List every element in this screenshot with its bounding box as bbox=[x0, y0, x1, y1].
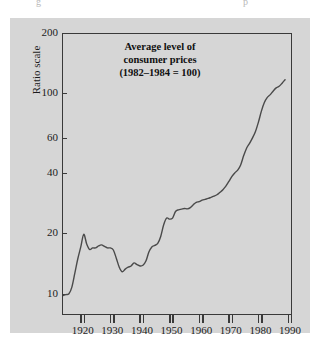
x-axis-tick-mark-1920 bbox=[80, 315, 85, 323]
x-axis-tick-mark-1980 bbox=[258, 315, 263, 323]
series-line-consumer-price-index bbox=[63, 80, 285, 296]
y-axis-tick-label-200: 200 bbox=[32, 27, 58, 38]
page-bleed-text: g p bbox=[0, 0, 321, 12]
y-axis-tick-label-10: 10 bbox=[32, 288, 58, 299]
x-axis-tick-mark-1930 bbox=[110, 315, 115, 323]
figure-panel: Ratio scale 20010060402010 Average level… bbox=[10, 18, 310, 333]
chart-title: Average level of consumer prices (1982–1… bbox=[80, 40, 240, 79]
x-axis-tick-label-1990: 1990 bbox=[270, 325, 310, 336]
chart-title-line-2: consumer prices bbox=[80, 53, 240, 66]
y-axis-tick-label-20: 20 bbox=[32, 227, 58, 238]
y-axis-tick-labels: 20010060402010 bbox=[28, 18, 58, 333]
page-bleed-text-left: g bbox=[36, 0, 41, 8]
x-axis-tick-mark-1940 bbox=[139, 315, 144, 323]
x-axis-tick-mark-1990 bbox=[288, 315, 293, 323]
chart-title-line-3: (1982–1984 = 100) bbox=[80, 66, 240, 79]
chart-title-line-1: Average level of bbox=[80, 40, 240, 53]
y-axis-tick-label-40: 40 bbox=[32, 167, 58, 178]
x-axis-tick-mark-1970 bbox=[228, 315, 233, 323]
x-axis-tick-mark-1950 bbox=[169, 315, 174, 323]
y-axis-tick-label-100: 100 bbox=[32, 87, 58, 98]
x-axis-tick-mark-1960 bbox=[199, 315, 204, 323]
page-bleed-text-right: p bbox=[243, 0, 248, 8]
y-axis-tick-label-60: 60 bbox=[32, 132, 58, 143]
